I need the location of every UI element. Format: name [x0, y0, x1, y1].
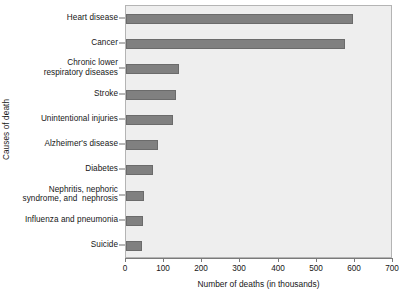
x-axis-tick — [163, 258, 164, 262]
category-tick — [119, 68, 125, 69]
bar — [126, 216, 143, 226]
category-label: Suicide — [14, 241, 118, 251]
category-label: Unintentional injuries — [14, 114, 118, 124]
x-axis-tick — [278, 258, 279, 262]
category-label: Diabetes — [14, 165, 118, 175]
x-axis-line — [125, 258, 392, 259]
category-label: Stroke — [14, 89, 118, 99]
category-tick — [119, 118, 125, 119]
x-axis-tick-label: 400 — [271, 264, 285, 273]
x-axis-tick-label: 200 — [194, 264, 208, 273]
bar — [126, 165, 153, 175]
category-label: Alzheimer's disease — [14, 139, 118, 149]
x-axis-tick-label: 600 — [347, 264, 361, 273]
category-tick — [119, 169, 125, 170]
x-axis-tick — [316, 258, 317, 262]
category-label: Chronic lower respiratory diseases — [14, 59, 118, 78]
bar — [126, 191, 144, 201]
bar — [126, 241, 142, 251]
category-tick — [119, 220, 125, 221]
category-label: Nephritis, nephoric syndrome, and nephro… — [14, 185, 118, 204]
bar — [126, 140, 158, 150]
x-axis-tick-label: 700 — [385, 264, 399, 273]
category-tick — [119, 17, 125, 18]
x-axis-tick-label: 0 — [123, 264, 128, 273]
category-tick — [119, 245, 125, 246]
x-axis-title: Number of deaths (in thousands) — [125, 279, 392, 289]
category-label: Heart disease — [14, 13, 118, 23]
x-axis-tick — [201, 258, 202, 262]
bar — [126, 64, 179, 74]
x-axis-tick — [125, 258, 126, 262]
x-axis-tick-label: 500 — [309, 264, 323, 273]
x-axis-tick — [392, 258, 393, 262]
plot-area — [125, 5, 392, 258]
category-tick — [119, 42, 125, 43]
bar — [126, 115, 173, 125]
y-axis-title: Causes of death — [0, 0, 14, 258]
category-label: Cancer — [14, 38, 118, 48]
bar — [126, 90, 176, 100]
bar — [126, 39, 345, 49]
category-label: Influenza and pneumonia — [14, 215, 118, 225]
category-tick — [119, 144, 125, 145]
x-axis-tick-label: 300 — [232, 264, 246, 273]
category-tick — [119, 93, 125, 94]
x-axis-tick — [239, 258, 240, 262]
bar — [126, 14, 353, 24]
category-tick — [119, 194, 125, 195]
y-axis-title-text: Causes of death — [3, 98, 12, 159]
category-axis-labels: Heart diseaseCancerChronic lower respira… — [14, 5, 118, 258]
bar-chart-figure: Causes of death Heart diseaseCancerChron… — [0, 0, 405, 295]
x-axis-tick — [354, 258, 355, 262]
x-axis-tick-label: 100 — [156, 264, 170, 273]
